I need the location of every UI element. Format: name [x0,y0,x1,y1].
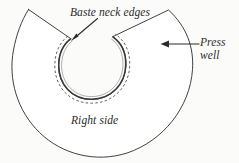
label-baste-neck-edges: Baste neck edges [70,6,150,19]
label-press-well-line1: Press [200,36,226,48]
pattern-diagram [0,0,239,163]
label-press-well-line2: well [200,49,226,62]
fabric-body-outline [12,10,193,158]
label-right-side: Right side [71,114,118,127]
label-press-well: Presswell [200,36,226,62]
neck-edge-line [59,37,126,99]
neck-edge-inner-highlight [62,39,123,97]
baste-neck-edges-arrow [71,19,98,42]
